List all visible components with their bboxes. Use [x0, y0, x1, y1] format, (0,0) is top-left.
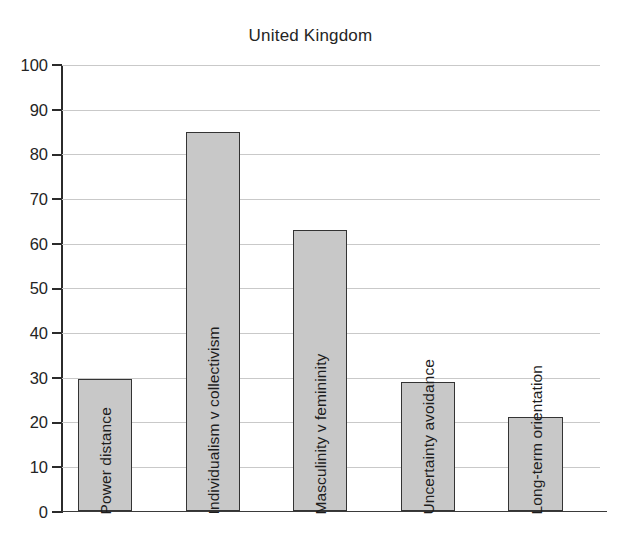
y-axis-tick [52, 109, 62, 111]
y-axis-tick [52, 466, 62, 468]
y-tick-label: 100 [2, 57, 48, 74]
gridline [62, 65, 600, 66]
y-axis-tick [52, 422, 62, 424]
y-axis-tick-labels: 100 90 80 70 60 50 40 30 20 10 0 [0, 0, 48, 545]
bar-long-term-orientation[interactable] [508, 417, 562, 511]
y-axis-tick [52, 511, 62, 513]
y-tick-label: 60 [2, 236, 48, 253]
gridline [62, 110, 600, 111]
y-axis-tick [52, 332, 62, 334]
y-tick-label: 10 [2, 459, 48, 476]
bar-individualism-v-collectivism[interactable] [186, 132, 240, 511]
y-axis-tick [52, 198, 62, 200]
y-tick-label: 30 [2, 370, 48, 387]
gridline [62, 154, 600, 155]
y-axis-tick [52, 288, 62, 290]
y-tick-label: 50 [2, 280, 48, 297]
bar-chart-figure: United Kingdom 100 90 80 70 60 50 40 30 … [0, 0, 621, 545]
chart-title: United Kingdom [0, 26, 621, 46]
y-axis-tick [52, 243, 62, 245]
bar-power-distance[interactable] [78, 379, 132, 511]
gridline [62, 199, 600, 200]
bar-masculinity-v-femininity[interactable] [293, 230, 347, 511]
y-tick-label: 70 [2, 191, 48, 208]
y-axis-tick [52, 154, 62, 156]
y-tick-label: 0 [2, 504, 48, 521]
y-tick-label: 40 [2, 325, 48, 342]
y-tick-label: 80 [2, 146, 48, 163]
plot-area: Power distance Individualism v collectiv… [62, 65, 600, 512]
y-tick-label: 90 [2, 102, 48, 119]
y-tick-label: 20 [2, 414, 48, 431]
x-axis-baseline [62, 511, 607, 512]
y-axis-tick [52, 377, 62, 379]
y-axis-tick [52, 64, 62, 66]
bar-uncertainty-avoidance[interactable] [401, 382, 455, 511]
